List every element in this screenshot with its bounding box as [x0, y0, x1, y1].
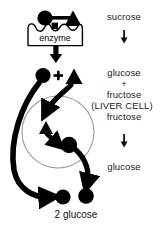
glucose-direct-pathway-arrow [13, 83, 50, 197]
total-products-label: 2 glucose [55, 209, 98, 220]
enzyme-reaction-arrow [50, 46, 63, 64]
pathway-arrow-sucrose-to-glucose [121, 30, 128, 44]
liver-cell-caption: (LIVER CELL) [91, 101, 152, 111]
pathway-label-sucrose: sucrose [107, 12, 141, 22]
pathway-plus-sign: + [121, 79, 127, 89]
product-glucose-left-circle-icon [55, 189, 70, 204]
cleavage-products [35, 68, 82, 84]
sucrose-molecule [37, 10, 81, 26]
pathway-label-glucose-2: glucose [107, 162, 140, 172]
pathway-arrow-fructose-to-glucose [121, 134, 128, 148]
pathway-label-fructose-1: fructose [107, 90, 142, 100]
plus-sign-icon [54, 71, 64, 81]
product-glucose-right-circle-icon [78, 188, 94, 204]
enzyme-label: enzyme [39, 33, 71, 43]
fructose-uptake-arrow [46, 85, 71, 112]
pathway-label-glucose-1: glucose [107, 68, 140, 78]
fructose-to-glucose-conversion-arrow [47, 134, 58, 144]
pathway-label-fructose-2: fructose [107, 112, 142, 122]
sucrose-glucose-circle-icon [37, 10, 52, 25]
figure-canvas: enzyme sucrose glucose + fructose (LIVER… [0, 0, 162, 232]
enzyme-active-site-marker [52, 23, 58, 29]
free-fructose-triangle-icon [66, 69, 83, 85]
